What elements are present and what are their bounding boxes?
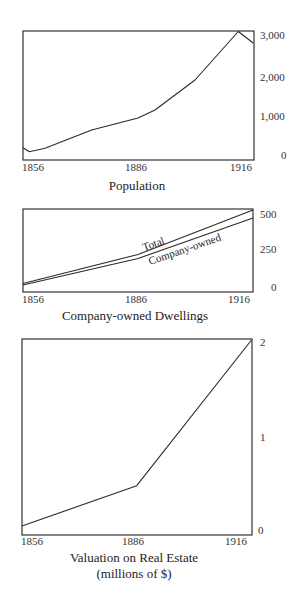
valuation-subtitle: (millions of $) (96, 566, 171, 581)
chart-figure: 3,000 2,000 1,000 0 1856 1886 1916 Popul… (0, 0, 305, 604)
population-y-tick-3000: 3,000 (260, 29, 285, 41)
dwellings-y-tick-250: 250 (260, 243, 277, 255)
population-x-tick-1856: 1856 (22, 161, 45, 173)
population-plot-frame (23, 31, 254, 160)
valuation-y-tick-2: 2 (260, 336, 266, 348)
valuation-x-tick-1886: 1886 (122, 535, 145, 547)
valuation-line (22, 340, 252, 526)
population-x-tick-1886: 1886 (125, 161, 148, 173)
dwellings-y-tick-0: 0 (271, 281, 277, 293)
population-y-tick-1000: 1,000 (260, 110, 285, 122)
population-y-tick-0: 0 (281, 149, 287, 161)
valuation-x-tick-1916: 1916 (225, 535, 248, 547)
valuation-x-tick-1856: 1856 (21, 535, 44, 547)
dwellings-x-tick-1916: 1916 (228, 293, 251, 305)
population-title: Population (109, 178, 166, 193)
valuation-y-tick-1: 1 (260, 431, 266, 443)
valuation-y-tick-0: 0 (258, 524, 264, 536)
population-y-tick-2000: 2,000 (260, 71, 285, 83)
population-chart: 3,000 2,000 1,000 0 1856 1886 1916 Popul… (22, 29, 287, 193)
dwellings-plot-frame (23, 209, 253, 292)
population-line (23, 32, 254, 152)
population-x-tick-1916: 1916 (230, 161, 253, 173)
valuation-plot-frame (22, 339, 252, 535)
valuation-title: Valuation on Real Estate (70, 550, 198, 565)
valuation-chart: 2 1 0 1856 1886 1916 Valuation on Real E… (21, 336, 266, 581)
dwellings-chart: Total Company-owned 500 250 0 1856 1886 … (22, 208, 277, 323)
dwellings-title: Company-owned Dwellings (62, 308, 208, 323)
dwellings-total-line (23, 210, 253, 284)
dwellings-x-tick-1886: 1886 (125, 293, 148, 305)
dwellings-y-tick-500: 500 (260, 208, 277, 220)
dwellings-x-tick-1856: 1856 (22, 293, 45, 305)
